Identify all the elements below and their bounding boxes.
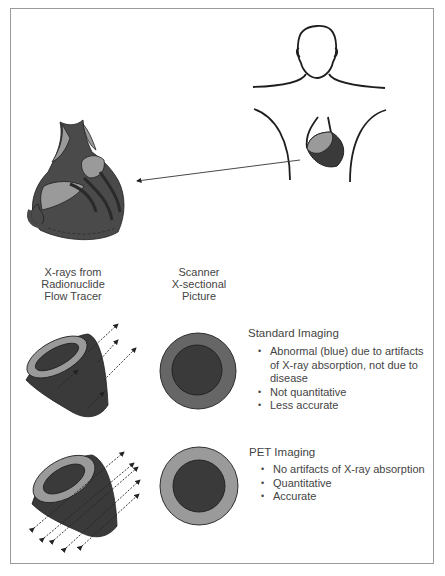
label-line: X-sectional <box>156 278 242 290</box>
arrow-left-icon <box>137 160 300 181</box>
pet-heart-cone-icon <box>25 446 140 548</box>
standard-imaging-bullets: Abnormal (blue) due to artifacts of X-ra… <box>256 345 426 413</box>
bullet-item: Quantitative <box>259 477 439 491</box>
bullet-item: Less accurate <box>256 399 426 413</box>
bullet-item: Abnormal (blue) due to artifacts of X-ra… <box>256 345 426 386</box>
pet-imaging-bullets: No artifacts of X-ray absorption Quantit… <box>259 463 439 504</box>
standard-heart-cone-icon <box>20 324 136 417</box>
standard-imaging-title: Standard Imaging <box>248 327 339 339</box>
bullet-item: No artifacts of X-ray absorption <box>259 463 439 477</box>
scanner-column-label: Scanner X-sectional Picture <box>156 266 242 302</box>
label-line: X-rays from <box>24 266 122 278</box>
bullet-item: Not quantitative <box>256 386 426 400</box>
label-line: Radionuclide <box>24 278 122 290</box>
label-line: Scanner <box>156 266 242 278</box>
pet-imaging-title: PET Imaging <box>249 446 315 458</box>
xray-column-label: X-rays from Radionuclide Flow Tracer <box>24 266 122 302</box>
heart-in-chest-icon <box>307 132 344 167</box>
heart-anatomy-icon <box>29 120 124 240</box>
standard-cross-section-icon <box>160 333 236 409</box>
bullet-item: Accurate <box>259 490 439 504</box>
pet-cross-section-icon <box>160 447 238 525</box>
label-line: Picture <box>156 290 242 302</box>
label-line: Flow Tracer <box>24 290 122 302</box>
